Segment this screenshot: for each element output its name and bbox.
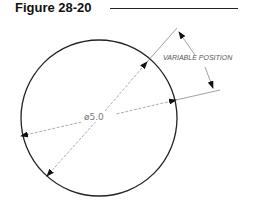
diameter-dim-line-2 xyxy=(99,62,147,118)
variable-dim-line-b xyxy=(205,67,213,88)
diameter-dim-line-2b xyxy=(47,118,99,176)
variable-position-label: VARIABLE POSITION xyxy=(163,54,233,61)
extension-line-lower xyxy=(176,90,220,100)
drawing-canvas: ø5.0 VARIABLE POSITION xyxy=(0,0,253,205)
diameter-label: ø5.0 xyxy=(84,112,104,122)
variable-dim-line-a xyxy=(179,32,195,55)
